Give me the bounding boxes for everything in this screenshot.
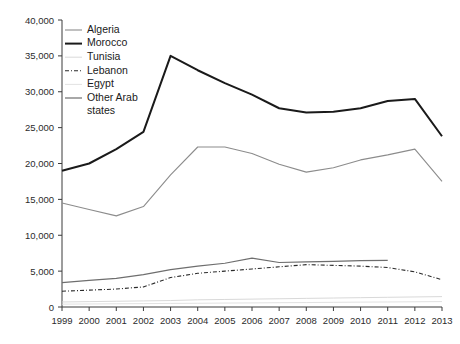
x-tick-label: 2006 [241,315,262,326]
x-tick-label: 2007 [269,315,290,326]
x-tick-label: 1999 [51,315,72,326]
line-chart-figure: 05,00010,00015,00020,00025,00030,00035,0… [0,0,460,344]
x-tick-label: 2013 [431,315,452,326]
y-tick-label: 15,000 [25,194,54,205]
x-tick-label: 2009 [323,315,344,326]
y-tick-label: 0 [49,302,54,313]
x-tick-label: 2002 [133,315,154,326]
legend-label-egypt: Egypt [87,77,114,89]
legend-label-lebanon: Lebanon [87,64,128,76]
legend-label-morocco: Morocco [87,36,127,48]
y-tick-label: 10,000 [25,230,54,241]
y-tick-label: 25,000 [25,122,54,133]
x-tick-label: 2011 [377,315,397,326]
legend-label-algeria: Algeria [87,23,120,35]
y-tick-label: 20,000 [25,158,54,169]
y-tick-label: 5,000 [30,266,54,277]
y-tick-label: 35,000 [25,50,54,61]
chart-canvas: 05,00010,00015,00020,00025,00030,00035,0… [0,0,460,344]
x-tick-label: 2003 [160,315,181,326]
legend-label-states: states [87,104,115,116]
x-tick-label: 2001 [106,315,127,326]
x-tick-label: 2008 [296,315,317,326]
y-tick-label: 30,000 [25,86,54,97]
x-tick-label: 2012 [404,315,425,326]
x-tick-label: 2000 [79,315,100,326]
legend-label-other-arab: Other Arab [87,91,138,103]
y-tick-label: 40,000 [25,15,54,26]
chart-background [0,0,460,344]
x-tick-label: 2005 [214,315,235,326]
legend-label-tunisia: Tunisia [87,50,121,62]
x-tick-label: 2010 [350,315,371,326]
x-tick-label: 2004 [187,315,208,326]
